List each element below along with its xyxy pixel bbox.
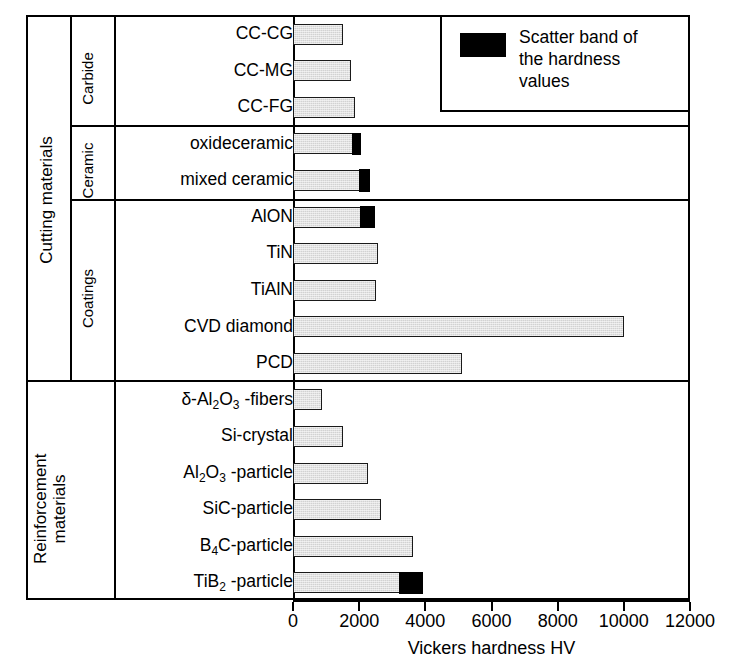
x-tick — [623, 602, 625, 611]
legend-left-rule — [440, 15, 442, 112]
x-tick — [424, 602, 426, 611]
group-label-reinforcement-materials: Reinforcement materials — [31, 454, 69, 564]
x-tick-label: 12000 — [650, 611, 730, 632]
bar — [293, 536, 413, 557]
row-label: B4C-particle — [118, 527, 301, 564]
bar — [293, 389, 322, 410]
bar — [293, 243, 378, 264]
x-tick — [358, 602, 360, 611]
x-tick — [689, 602, 691, 611]
row-label: oxideceramic — [118, 125, 301, 162]
row-label: Al2O3 -particle — [118, 454, 301, 491]
bar — [293, 280, 376, 301]
x-tick — [557, 602, 559, 611]
x-tick — [292, 602, 294, 611]
legend-scatter-swatch — [460, 33, 506, 57]
row-label: Si-crystal — [118, 417, 301, 454]
row-label: AlON — [118, 198, 301, 235]
divider-reinforcement-labels — [114, 382, 116, 600]
legend-line-3: values — [519, 70, 694, 92]
legend-line-2: the hardness — [519, 48, 694, 70]
row-label: TiAlN — [118, 271, 301, 308]
reinforcement-line2: materials — [50, 475, 69, 544]
row-label: CVD diamond — [118, 308, 301, 345]
bar — [293, 463, 368, 484]
bar — [293, 133, 360, 154]
row-label: PCD — [118, 344, 301, 381]
subgroup-label-coatings: Coatings — [79, 259, 96, 339]
bar — [293, 97, 355, 118]
bar — [293, 426, 343, 447]
x-tick — [491, 602, 493, 611]
bar — [293, 353, 462, 374]
bar — [293, 207, 374, 228]
chart-root: Cutting materials Reinforcement material… — [0, 0, 741, 671]
legend-bottom-rule — [440, 110, 690, 112]
bar — [293, 170, 369, 191]
group-label-cutting-materials: Cutting materials — [37, 125, 57, 275]
row-label: mixed ceramic — [118, 161, 301, 198]
row-label: SiC-particle — [118, 490, 301, 527]
row-label: CC-MG — [118, 52, 301, 89]
subgroup-label-ceramic: Ceramic — [79, 131, 96, 211]
bar — [293, 24, 343, 45]
row-label: CC-FG — [118, 88, 301, 125]
divider-subgroup-labels — [114, 15, 116, 380]
divider-group-subgroup — [70, 15, 72, 380]
bar — [293, 316, 624, 337]
subgroup-label-carbide: Carbide — [79, 39, 96, 119]
row-label: TiB2 -particle — [118, 563, 301, 600]
bar-scatter-band — [399, 572, 423, 594]
bar-scatter-band — [360, 206, 375, 228]
bar-scatter-band — [359, 169, 370, 191]
row-label: δ-Al2O3 -fibers — [118, 381, 301, 418]
bar-scatter-band — [352, 133, 361, 155]
bar — [293, 60, 351, 81]
bar — [293, 499, 381, 520]
reinforcement-line1: Reinforcement — [31, 453, 50, 564]
legend-text: Scatter band of the hardness values — [519, 26, 694, 92]
row-label: CC-CG — [118, 15, 301, 52]
bar — [293, 572, 422, 593]
row-label: TiN — [118, 234, 301, 271]
legend-line-1: Scatter band of — [519, 26, 694, 48]
x-axis-title: Vickers hardness HV — [293, 638, 690, 659]
